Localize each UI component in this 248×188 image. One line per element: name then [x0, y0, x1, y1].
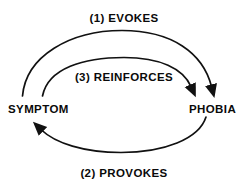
edge-label-provokes: (2) PROVOKES [0, 168, 248, 180]
cycle-diagram: SYMPTOM PHOBIA (1) EVOKES (3) REINFORCES… [0, 0, 248, 188]
diagram-arc-layer [0, 0, 248, 188]
edge-path-evokes [23, 31, 212, 97]
node-label-symptom: SYMPTOM [8, 104, 69, 116]
edge-label-evokes: (1) EVOKES [0, 13, 248, 25]
edge-path-provokes [42, 117, 207, 153]
edge-label-reinforces: (3) REINFORCES [0, 72, 248, 84]
node-label-phobia: PHOBIA [189, 104, 236, 116]
